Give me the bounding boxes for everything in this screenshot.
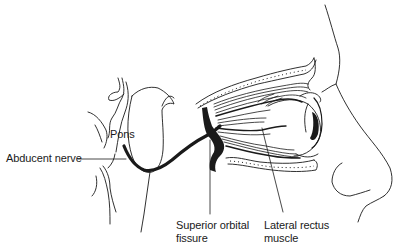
face-profile (322, 5, 392, 222)
label-superior-orbital-fissure-line2: fissure (176, 232, 208, 245)
label-lateral-rectus-line2: muscle (264, 232, 298, 245)
label-superior-orbital-fissure-line1: Superior orbital (176, 219, 249, 232)
brainstem-outline (88, 78, 128, 224)
eyeball (268, 93, 322, 157)
orbital-floor (226, 157, 317, 171)
leader-lateral-rectus (262, 128, 283, 212)
diagram-artwork (0, 0, 403, 252)
label-lateral-rectus-line1: Lateral rectus (264, 219, 329, 232)
label-abducent-nerve: Abducent nerve (6, 152, 82, 165)
superior-orbital-fissure (202, 107, 224, 172)
label-pons: Pons (110, 128, 135, 141)
pons (128, 87, 174, 232)
abducent-nerve-path (124, 126, 220, 171)
extraocular-muscles (214, 83, 308, 158)
